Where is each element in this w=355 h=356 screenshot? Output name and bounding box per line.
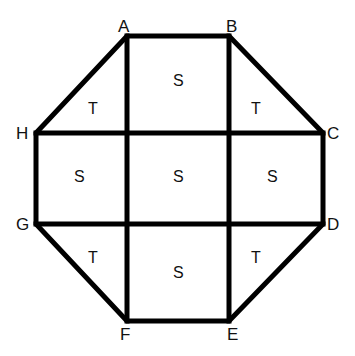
vertex-label-g: G: [16, 215, 29, 234]
vertex-label-a: A: [118, 17, 130, 36]
octagon-diagram: A B C D E F G H S T T S S S T S T: [0, 0, 355, 356]
region-label-bottom-center: S: [173, 264, 184, 281]
region-label-bottom-right: T: [251, 249, 261, 266]
vertex-label-f: F: [120, 325, 130, 344]
region-label-middle-right: S: [267, 168, 278, 185]
vertex-label-b: B: [226, 17, 237, 36]
region-label-middle-left: S: [74, 168, 85, 185]
region-label-bottom-left: T: [88, 249, 98, 266]
region-label-top-center: S: [173, 72, 184, 89]
region-label-top-left: T: [88, 100, 98, 117]
region-label-center: S: [173, 168, 184, 185]
vertex-label-e: E: [227, 325, 238, 344]
region-label-top-right: T: [251, 100, 261, 117]
vertex-label-h: H: [16, 124, 28, 143]
vertex-label-d: D: [327, 215, 339, 234]
vertex-label-c: C: [327, 124, 339, 143]
